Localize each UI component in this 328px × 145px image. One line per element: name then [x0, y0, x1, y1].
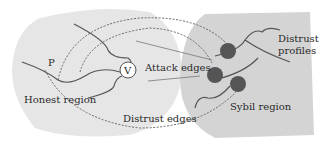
sybil-node-1: [220, 43, 236, 59]
sybil-region-label: Sybil region: [230, 101, 291, 112]
distrust-profiles-label-line1: Distrust: [278, 33, 319, 44]
distrust-profiles-label-line2: profiles: [278, 45, 316, 56]
v-node-label: V: [124, 65, 131, 76]
sybil-node-3: [230, 76, 246, 92]
distrust-edges-label: Distrust edges: [123, 113, 197, 124]
p-node-label: P: [48, 57, 55, 68]
attack-edges-label: Attack edges: [145, 62, 211, 73]
sybil-region-shape: [180, 12, 314, 138]
honest-region-label: Honest region: [24, 94, 96, 105]
sybil-diagram: P V Attack edges Honest region Distrust …: [0, 0, 328, 145]
